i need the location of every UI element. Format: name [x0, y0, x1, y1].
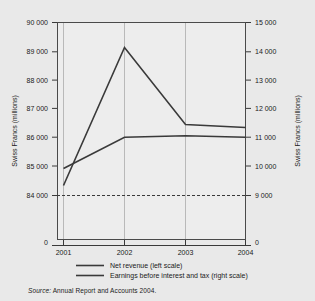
- right-tick-label-3: 12 000: [255, 105, 277, 112]
- dual-axis-line-chart: 90 000 89 000 88 000 87 000 86 000 85 00…: [0, 0, 315, 301]
- source-text: Annual Report and Accounts 2004.: [53, 287, 157, 294]
- left-tick-label-0: 90 000: [27, 19, 49, 26]
- source-note: Source: Annual Report and Accounts 2004.: [28, 287, 156, 294]
- x-axis: [52, 240, 251, 246]
- x-tick-label-2001: 2001: [56, 249, 72, 256]
- plot-background: [57, 22, 246, 240]
- source-prefix: Source:: [28, 287, 51, 294]
- legend-label-ebit: Earnings before interest and tax (right …: [110, 272, 248, 280]
- legend-label-net-revenue: Net revenue (left scale): [110, 262, 182, 270]
- left-tick-label-2: 88 000: [27, 77, 49, 84]
- right-tick-label-5: 10 000: [255, 163, 277, 170]
- left-tick-label-zero: 0: [44, 239, 48, 246]
- chart-figure: 90 000 89 000 88 000 87 000 86 000 85 00…: [0, 0, 315, 301]
- right-tick-label-zero: 0: [255, 239, 259, 246]
- right-axis-title: Swiss Francs (millions): [294, 95, 302, 167]
- left-tick-label-5: 85 000: [27, 163, 49, 170]
- x-tick-label-2003: 2003: [178, 249, 194, 256]
- right-tick-label-2: 13 000: [255, 77, 277, 84]
- chart-legend: Net revenue (left scale) Earnings before…: [76, 262, 248, 280]
- x-tick-label-2004: 2004: [238, 249, 254, 256]
- left-axis-title: Swiss Francs (millions): [11, 95, 19, 167]
- right-tick-label-4: 11 000: [255, 134, 276, 141]
- left-tick-label-4: 86 000: [27, 134, 49, 141]
- left-tick-label-1: 89 000: [27, 48, 49, 55]
- right-axis-ticks: [246, 23, 251, 196]
- right-tick-label-6: 9 000: [255, 192, 273, 199]
- right-tick-label-1: 14 000: [255, 48, 277, 55]
- left-tick-label-6: 84 000: [27, 192, 49, 199]
- right-tick-label-0: 15 000: [255, 19, 277, 26]
- left-tick-label-3: 87 000: [27, 105, 49, 112]
- x-tick-label-2002: 2002: [117, 249, 133, 256]
- left-axis-ticks: [52, 23, 57, 196]
